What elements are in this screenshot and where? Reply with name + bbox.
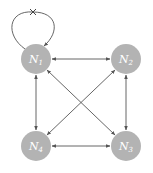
network-diagram: N1 N2 N3 N4 <box>0 0 153 173</box>
node-n2: N2 <box>111 44 141 74</box>
node-n4: N4 <box>21 131 51 161</box>
node-n3: N3 <box>111 131 141 161</box>
self-loop-edge-n1 <box>12 12 54 49</box>
node-n1: N1 <box>21 44 51 74</box>
